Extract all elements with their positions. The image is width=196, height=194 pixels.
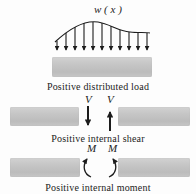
beam-sign-convention-figure: w ( x ) Positive distributed load V V Po… [0,0,196,194]
moment-arrow-counterclockwise [84,159,91,177]
caption-internal-moment: Positive internal moment [4,182,192,193]
beam-distributed-load [52,57,152,77]
beam-moment-left-segment [10,158,80,177]
moment-arrow-clockwise [109,159,116,177]
beam-moment-right-segment [118,158,190,177]
moment-label-left: M [87,143,96,154]
beam-shear-left-segment [10,107,79,126]
beam-shear-right-segment [118,107,190,126]
caption-internal-shear: Positive internal shear [4,133,192,144]
load-arrow-group [57,22,147,50]
moment-label-right: M [108,143,117,154]
shear-arrows-drawing [80,103,120,133]
caption-distributed-load: Positive distributed load [4,81,192,92]
moment-arrows-drawing [78,154,122,182]
distributed-load-drawing [45,14,157,56]
